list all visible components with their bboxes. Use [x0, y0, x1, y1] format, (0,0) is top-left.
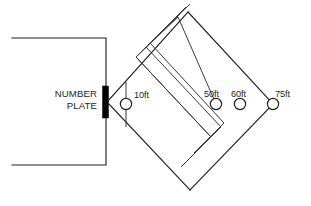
enclosure-top-edge: [12, 38, 106, 86]
inner-lane-line-2: [146, 47, 221, 127]
channel-inner-top-stub: [150, 4, 190, 43]
sight-line-upper: [108, 12, 188, 101]
number-plate-label-line1: NUMBER: [55, 88, 97, 100]
marker-label-75ft: 75ft: [275, 89, 290, 99]
diagram-canvas: 10ft 50ft 60ft 75ft NUMBER PLATE: [0, 0, 311, 206]
channel-inner-bottom: [194, 123, 224, 153]
number-plate-label-line2: PLATE: [55, 100, 97, 112]
marker-circle-10ft[interactable]: [120, 98, 131, 109]
number-plate-label: NUMBER PLATE: [55, 88, 97, 111]
diamond-edge-bottom-right: [190, 104, 273, 190]
marker-label-50ft: 50ft: [204, 89, 219, 99]
enclosure-bottom-edge: [12, 118, 106, 165]
inner-lane: [136, 7, 221, 167]
sight-line-lower: [108, 103, 190, 190]
outer-diamond: [188, 12, 273, 190]
marker-circle-60ft[interactable]: [234, 98, 245, 109]
number-plate-bar: [103, 86, 109, 118]
marker-circle-50ft[interactable]: [210, 98, 221, 109]
marker-label-60ft: 60ft: [231, 89, 246, 99]
marker-circle-75ft[interactable]: [267, 98, 278, 109]
marker-label-10ft: 10ft: [134, 90, 149, 100]
inner-lane-channel: [138, 4, 224, 153]
number-plate-diagram: 10ft 50ft 60ft 75ft: [0, 0, 311, 206]
